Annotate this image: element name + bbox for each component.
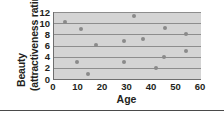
gridline — [54, 57, 201, 58]
page-divider-rule — [0, 110, 224, 111]
data-point — [162, 55, 166, 59]
x-tick-label: 50 — [166, 81, 186, 92]
gridline — [54, 68, 201, 69]
gridline — [54, 46, 201, 47]
x-tick-label: 30 — [117, 81, 137, 92]
y-axis-title-line1: Beauty — [15, 53, 27, 87]
data-point — [141, 37, 145, 41]
x-tick-label: 40 — [141, 81, 161, 92]
data-point — [79, 27, 83, 31]
x-tick-label: 10 — [68, 81, 88, 92]
y-tick-label: 10 — [36, 19, 50, 28]
data-point — [132, 14, 136, 18]
scatter-plot-figure: Beauty (attractiveness rating) 024681012… — [0, 0, 224, 115]
data-point — [154, 66, 158, 70]
data-point — [94, 43, 98, 47]
x-tick-label: 60 — [190, 81, 210, 92]
data-point — [122, 39, 126, 43]
y-tick-label: 2 — [36, 63, 50, 72]
gridline — [54, 23, 201, 24]
y-tick-label: 8 — [36, 30, 50, 39]
y-tick-label: 6 — [36, 41, 50, 50]
x-axis-title: Age — [53, 93, 200, 105]
y-tick-label: 12 — [36, 8, 50, 17]
data-point — [184, 49, 188, 53]
y-tick-label: 4 — [36, 52, 50, 61]
data-point — [75, 60, 79, 64]
data-point — [86, 72, 90, 76]
x-axis-tick-labels: 0102030405060 — [53, 81, 200, 93]
plot-area — [53, 12, 201, 80]
data-point — [163, 26, 167, 30]
data-point — [122, 60, 126, 64]
y-axis-tick-labels: 024681012 — [33, 12, 50, 79]
gridline — [54, 34, 201, 35]
x-tick-label: 0 — [43, 81, 63, 92]
gridline — [54, 12, 201, 13]
x-tick-label: 20 — [92, 81, 112, 92]
